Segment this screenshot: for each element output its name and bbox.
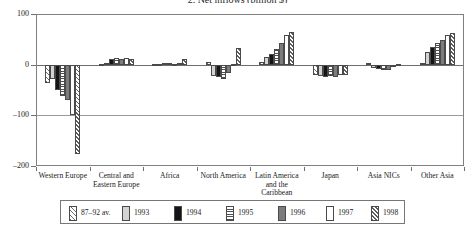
legend-item[interactable]: 1993 — [122, 205, 149, 221]
bar — [75, 65, 80, 154]
chart-legend: 87–92 av.199319941995199619971998 — [60, 200, 405, 224]
bar — [129, 59, 134, 65]
legend-label: 1998 — [383, 209, 398, 217]
legend-swatch-icon — [122, 206, 130, 221]
bar — [226, 65, 231, 73]
x-axis-label: Western Europe — [36, 172, 90, 181]
legend-label: 1995 — [238, 209, 253, 217]
legend-label: 1994 — [186, 209, 201, 217]
legend-swatch-icon — [278, 206, 286, 221]
bar-group — [420, 14, 455, 166]
bar — [396, 64, 401, 66]
legend-item[interactable]: 1997 — [326, 205, 353, 221]
x-axis-label: Asia NICs — [357, 172, 411, 181]
legend-swatch-icon — [326, 206, 334, 221]
bar-chart: 2. Net inflows (billion $) 1000–100–200 … — [0, 0, 475, 233]
x-tick-mark — [36, 167, 37, 171]
legend-swatch-icon — [371, 206, 379, 221]
y-tick-label: –200 — [13, 162, 29, 170]
bar — [343, 65, 348, 76]
bar — [450, 33, 455, 64]
legend-item[interactable]: 87–92 av. — [69, 205, 110, 221]
legend-item[interactable]: 1995 — [226, 205, 253, 221]
y-tick-label: 100 — [17, 10, 29, 18]
x-tick-mark — [411, 167, 412, 171]
legend-swatch-icon — [226, 206, 234, 221]
bar-group — [152, 14, 187, 166]
legend-swatch-icon — [69, 206, 77, 221]
x-axis-label: Latin America and the Caribbean — [250, 172, 304, 198]
x-axis-categories: Western EuropeCentral and Eastern Europe… — [36, 167, 464, 197]
x-tick-mark — [304, 167, 305, 171]
x-axis-label: Central and Eastern Europe — [90, 172, 144, 189]
x-tick-mark — [143, 167, 144, 171]
bar-group — [206, 14, 241, 166]
x-tick-mark — [464, 167, 465, 171]
bar-group — [45, 14, 80, 166]
x-tick-mark — [90, 167, 91, 171]
bar-group — [99, 14, 134, 166]
x-axis-label: Japan — [304, 172, 358, 181]
legend-label: 1996 — [290, 209, 305, 217]
legend-label: 87–92 av. — [81, 209, 110, 217]
bar — [182, 59, 187, 65]
chart-title: 2. Net inflows (billion $) — [0, 0, 475, 3]
bar-group — [259, 14, 294, 166]
legend-label: 1993 — [134, 209, 149, 217]
x-tick-mark — [250, 167, 251, 171]
x-axis-label: North America — [197, 172, 251, 181]
x-tick-mark — [197, 167, 198, 171]
legend-swatch-icon — [174, 206, 182, 221]
bar-group — [313, 14, 348, 166]
bar-group — [366, 14, 401, 166]
y-axis: 1000–100–200 — [0, 14, 36, 166]
bar — [289, 32, 294, 65]
y-tick-label: 0 — [25, 61, 29, 69]
x-axis-label: Africa — [143, 172, 197, 181]
legend-item[interactable]: 1996 — [278, 205, 305, 221]
x-axis-label: Other Asia — [411, 172, 465, 181]
bars-layer — [36, 14, 464, 166]
legend-item[interactable]: 1994 — [174, 205, 201, 221]
bar — [236, 48, 241, 64]
legend-item[interactable]: 1998 — [371, 205, 398, 221]
legend-label: 1997 — [338, 209, 353, 217]
x-tick-mark — [357, 167, 358, 171]
y-tick-label: –100 — [13, 111, 29, 119]
